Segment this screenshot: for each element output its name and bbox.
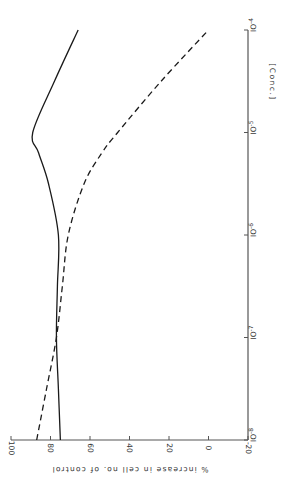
series-group bbox=[32, 30, 208, 440]
y-axis-ticks: 100806040200-20 bbox=[7, 436, 253, 455]
dashed-series-line bbox=[37, 30, 209, 440]
x-tick-label: IO-7 bbox=[247, 325, 258, 339]
x-axis-ticks: IO-8IO-7IO-6IO-5IO-4 bbox=[244, 18, 258, 442]
line-chart: IO-8IO-7IO-6IO-5IO-4 100806040200-20 [Co… bbox=[0, 0, 291, 494]
y-tick-label: 60 bbox=[86, 443, 95, 453]
y-tick-label: 80 bbox=[46, 443, 55, 453]
x-tick-label: IO-6 bbox=[247, 223, 258, 237]
y-tick-label: 40 bbox=[125, 443, 134, 453]
y-tick-label: 100 bbox=[7, 441, 16, 456]
x-tick-label: IO-4 bbox=[247, 18, 258, 32]
y-tick-label: 0 bbox=[204, 446, 213, 451]
y-tick-label: -20 bbox=[244, 442, 253, 454]
solid-series-line bbox=[32, 30, 78, 440]
y-tick-label: 20 bbox=[165, 443, 174, 453]
x-axis-title: [Conc.] bbox=[268, 63, 277, 100]
x-tick-label: IO-5 bbox=[247, 120, 258, 134]
x-tick-label: IO-8 bbox=[247, 428, 258, 442]
y-axis-title: % increase in cell no. of control bbox=[51, 465, 208, 474]
